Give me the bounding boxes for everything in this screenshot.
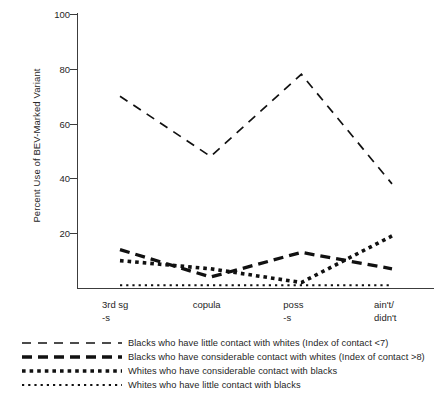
- x-axis-label-line1: poss: [283, 299, 303, 310]
- legend-item-label: Whites who have little contact with blac…: [128, 380, 301, 390]
- y-axis-tick-mark: [70, 69, 78, 70]
- x-axis-label-line1: copula: [193, 299, 221, 310]
- y-axis-tick-label: 40: [24, 173, 70, 184]
- x-axis-category-label: ain't/didn't: [374, 299, 444, 324]
- legend-swatch-icon: [22, 336, 128, 350]
- chart-figure: Percent Use of BEV-Marked Variant 100806…: [0, 0, 444, 396]
- legend-item-label: Blacks who have considerable contact wit…: [128, 352, 425, 362]
- legend-item-label: Blacks who have little contact with whit…: [128, 338, 388, 348]
- chart-legend: Blacks who have little contact with whit…: [22, 336, 442, 392]
- y-axis-tick-mark: [70, 124, 78, 125]
- chart-series-line: [120, 250, 392, 277]
- y-axis-tick-label: 100: [24, 9, 70, 20]
- x-axis-category-label: poss-s: [283, 299, 383, 324]
- y-axis-tick-mark: [70, 178, 78, 179]
- x-axis-label-line1: ain't/: [374, 299, 394, 310]
- legend-item: Blacks who have considerable contact wit…: [22, 350, 442, 364]
- chart-series-line: [120, 74, 392, 184]
- x-axis-label-line2: -s: [283, 312, 383, 325]
- y-axis-line: [77, 13, 78, 289]
- y-axis-tick-label: 80: [24, 63, 70, 74]
- legend-item: Whites who have considerable contact wit…: [22, 364, 442, 378]
- chart-series-line: [120, 236, 392, 283]
- x-axis-label-line2: didn't: [374, 312, 444, 325]
- x-axis-label-line2: -s: [102, 312, 202, 325]
- x-axis-line: [77, 288, 434, 289]
- x-axis-label-line1: 3rd sg: [102, 299, 128, 310]
- legend-swatch-icon: [22, 350, 128, 364]
- legend-swatch-icon: [22, 378, 128, 392]
- y-axis-tick-mark: [70, 14, 78, 15]
- legend-item: Whites who have little contact with blac…: [22, 378, 442, 392]
- x-axis-category-labels: 3rd sg-scopulaposs-sain't/didn't: [78, 299, 433, 339]
- legend-item-label: Whites who have considerable contact wit…: [128, 366, 337, 376]
- y-axis-tick-label: 60: [24, 118, 70, 129]
- legend-swatch-icon: [22, 364, 128, 378]
- x-axis-category-label: copula: [193, 299, 293, 312]
- y-axis-tick-mark: [70, 233, 78, 234]
- x-axis-category-label: 3rd sg-s: [102, 299, 202, 324]
- y-axis-tick-label: 20: [24, 228, 70, 239]
- legend-item: Blacks who have little contact with whit…: [22, 336, 442, 350]
